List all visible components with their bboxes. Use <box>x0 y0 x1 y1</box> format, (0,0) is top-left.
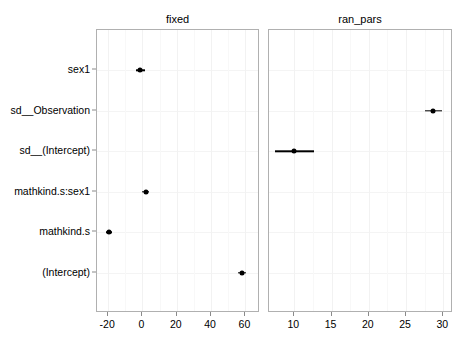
facet-strip-fixed: fixed <box>96 10 259 28</box>
gridline-vertical <box>369 30 370 311</box>
x-axis-tick-label: -20 <box>100 318 115 330</box>
estimate-point <box>143 189 148 194</box>
gridline-vertical-minor <box>425 30 426 311</box>
x-axis-tick-mark <box>368 312 369 316</box>
gridline-vertical-minor <box>228 30 229 311</box>
x-axis-tick-mark <box>141 312 142 316</box>
gridline-vertical <box>211 30 212 311</box>
y-axis-tick-label: mathkind.s:sex1 <box>14 185 90 197</box>
estimate-point <box>292 149 297 154</box>
x-axis-tick-label: 25 <box>399 318 411 330</box>
facet-strip-ran-pars: ran_pars <box>268 10 452 28</box>
estimate-point <box>107 230 112 235</box>
estimate-point <box>138 68 143 73</box>
panel-fixed <box>96 29 259 312</box>
panel-ran-pars <box>268 29 452 312</box>
y-axis-tick-label: mathkind.s <box>39 225 90 237</box>
x-axis-tick-label: 30 <box>436 318 448 330</box>
gridline-horizontal <box>269 192 451 193</box>
gridline-horizontal <box>269 273 451 274</box>
gridline-horizontal <box>269 111 451 112</box>
x-axis-tick-mark <box>210 312 211 316</box>
y-axis: sex1sd__Observationsd__(Intercept)mathki… <box>0 29 96 312</box>
gridline-vertical <box>177 30 178 311</box>
x-axis-tick-label: 20 <box>362 318 374 330</box>
x-axis-tick-label: 20 <box>170 318 182 330</box>
gridline-vertical-minor <box>160 30 161 311</box>
y-axis-tick-label: sex1 <box>68 63 90 75</box>
x-axis-tick-label: 0 <box>139 318 145 330</box>
x-axis-tick-mark <box>331 312 332 316</box>
x-axis-tick-mark <box>176 312 177 316</box>
gridline-vertical <box>142 30 143 311</box>
gridline-vertical <box>443 30 444 311</box>
estimate-point <box>430 108 435 113</box>
y-axis-tick-label: sd__Observation <box>11 104 90 116</box>
y-axis-tick-label: (Intercept) <box>42 266 90 278</box>
gridline-horizontal <box>269 70 451 71</box>
gridline-vertical <box>294 30 295 311</box>
x-axis-tick-mark <box>107 312 108 316</box>
x-axis-tick-mark <box>244 312 245 316</box>
gridline-vertical-minor <box>387 30 388 311</box>
coefficient-dot-whisker-plot: fixed ran_pars sex1sd__Observationsd__(I… <box>0 0 460 356</box>
gridline-vertical-minor <box>125 30 126 311</box>
gridline-vertical-minor <box>350 30 351 311</box>
gridline-vertical <box>245 30 246 311</box>
y-axis-tick-label: sd__(Intercept) <box>19 144 90 156</box>
gridline-vertical-minor <box>194 30 195 311</box>
x-axis-tick-label: 15 <box>325 318 337 330</box>
x-axis-tick-mark <box>293 312 294 316</box>
x-axis-tick-mark <box>405 312 406 316</box>
gridline-horizontal <box>269 232 451 233</box>
x-axis-fixed: -200204060 <box>96 312 259 338</box>
x-axis-tick-label: 10 <box>287 318 299 330</box>
gridline-vertical <box>406 30 407 311</box>
facet-strip-label: ran_pars <box>338 13 381 25</box>
gridline-vertical <box>332 30 333 311</box>
gridline-vertical-minor <box>313 30 314 311</box>
estimate-point <box>239 270 244 275</box>
x-axis-ran-pars: 1015202530 <box>268 312 452 338</box>
x-axis-tick-label: 40 <box>204 318 216 330</box>
x-axis-tick-mark <box>442 312 443 316</box>
x-axis-tick-label: 60 <box>239 318 251 330</box>
facet-strip-label: fixed <box>166 13 189 25</box>
gridline-vertical <box>108 30 109 311</box>
